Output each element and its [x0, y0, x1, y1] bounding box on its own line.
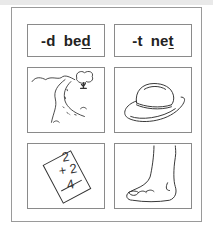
picture-hat [114, 67, 192, 133]
suffix-label: -t [132, 32, 142, 49]
picture-card: 2 + 2 4 [27, 143, 105, 209]
word-stem: ne [151, 32, 169, 49]
road-icon [28, 68, 104, 132]
card-problem: 2 + 2 4 [45, 147, 92, 194]
picture-foot [114, 143, 192, 209]
word-card-bed: -d bed [27, 24, 105, 57]
suffix-label: -d [41, 32, 56, 49]
word-stem: be [64, 32, 82, 49]
top-strip [0, 0, 213, 5]
foot-icon [115, 144, 191, 208]
word-label: bed [64, 32, 91, 49]
word-final-letter: t [169, 32, 174, 49]
word-label: net [151, 32, 174, 49]
word-card-net: -t net [114, 24, 192, 57]
hat-icon [115, 68, 191, 132]
picture-road [27, 67, 105, 133]
word-final-letter: d [82, 32, 91, 49]
